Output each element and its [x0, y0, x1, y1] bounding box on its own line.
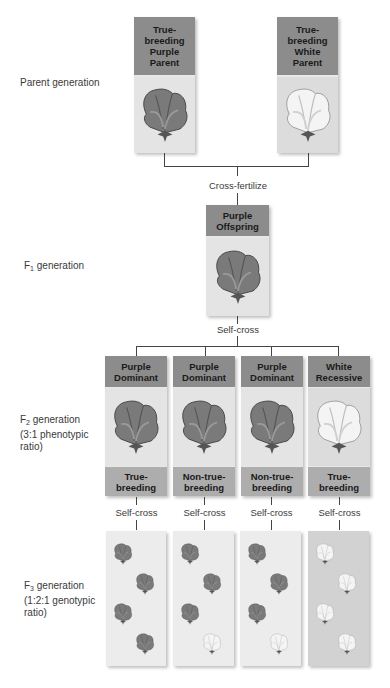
self-cross-label: Self-cross	[309, 507, 370, 518]
connector-line	[205, 346, 206, 356]
purple-flower-icon	[137, 83, 193, 147]
self-cross-label: Self-cross	[106, 507, 167, 518]
parent-white-header: True- breeding White Parent	[277, 17, 338, 75]
connector-line	[204, 497, 205, 505]
f2-header: Purple Dominant	[173, 356, 235, 387]
parent-purple-box: True- breeding Purple Parent	[134, 17, 195, 153]
f2-generation-label: F2 generation (3:1 phenotypic ratio)	[20, 414, 88, 453]
self-cross-label: Self-cross	[241, 507, 302, 518]
purple-flower-icon	[244, 394, 300, 460]
f2-breeding-label: Non-true- breeding	[241, 467, 303, 496]
white-flower-icon	[336, 571, 358, 597]
parent-purple-header: True- breeding Purple Parent	[134, 17, 195, 75]
purple-flower-icon	[210, 244, 266, 310]
f2-box-3: Purple Dominant Non-true- breeding	[241, 356, 303, 496]
purple-flower-icon	[134, 571, 156, 597]
connector-line	[271, 346, 272, 356]
purple-flower-icon	[268, 571, 290, 597]
connector-line	[136, 346, 339, 347]
connector-line	[308, 153, 309, 166]
purple-flower-icon	[201, 571, 223, 597]
f2-breeding-label: True- breeding	[308, 467, 370, 496]
purple-flower-icon	[108, 394, 164, 460]
connector-line	[271, 497, 272, 505]
f2-box-2: Purple Dominant Non-true- breeding	[173, 356, 235, 496]
connector-line	[271, 520, 272, 530]
f1-offspring-image	[206, 238, 269, 316]
connector-line	[237, 166, 238, 176]
white-flower-icon	[314, 541, 336, 567]
f2-image	[308, 388, 370, 466]
parent-purple-image	[134, 77, 195, 153]
f1-generation-label: F1 generation	[24, 260, 84, 275]
white-flower-icon	[314, 601, 336, 627]
f3-box-1	[106, 531, 166, 666]
f3-box-3	[240, 531, 301, 666]
self-cross-label: Self-cross	[188, 324, 288, 335]
parent-white-image	[277, 77, 338, 153]
purple-flower-icon	[176, 394, 232, 460]
f2-box-4: White Recessive True- breeding	[308, 356, 370, 496]
connector-line	[237, 193, 238, 205]
self-cross-label: Self-cross	[174, 507, 235, 518]
purple-flower-icon	[246, 541, 268, 567]
white-flower-icon	[280, 83, 336, 147]
purple-flower-icon	[246, 601, 268, 627]
f1-offspring-header: Purple Offspring	[206, 205, 269, 236]
f2-image	[173, 388, 235, 466]
f3-generation-label: F3 generation (1:2:1 genotypic ratio)	[24, 580, 95, 619]
purple-flower-icon	[179, 601, 201, 627]
f3-box-4	[308, 531, 369, 666]
white-flower-icon	[336, 631, 358, 657]
white-flower-icon	[311, 394, 367, 460]
purple-flower-icon	[112, 541, 134, 567]
connector-line	[237, 336, 238, 346]
connector-line	[237, 316, 238, 324]
f2-header: Purple Dominant	[105, 356, 167, 387]
purple-flower-icon	[134, 631, 156, 657]
connector-line	[339, 520, 340, 530]
connector-line	[164, 153, 165, 166]
connector-line	[339, 497, 340, 505]
f2-breeding-label: Non-true- breeding	[173, 467, 235, 496]
f3-box-2	[173, 531, 234, 666]
f2-image	[241, 388, 303, 466]
connector-line	[136, 346, 137, 356]
connector-line	[204, 520, 205, 530]
f2-box-1: Purple Dominant True- breeding	[105, 356, 167, 496]
parent-white-box: True- breeding White Parent	[277, 17, 338, 153]
f2-breeding-label: True- breeding	[105, 467, 167, 496]
purple-flower-icon	[179, 541, 201, 567]
f2-header: Purple Dominant	[241, 356, 303, 387]
purple-flower-icon	[112, 601, 134, 627]
f1-offspring-box: Purple Offspring	[206, 205, 269, 316]
cross-fertilize-label: Cross-fertilize	[188, 180, 288, 191]
connector-line	[136, 520, 137, 530]
parent-generation-label: Parent generation	[20, 77, 100, 89]
connector-line	[338, 346, 339, 356]
f2-image	[105, 388, 167, 466]
connector-line	[136, 497, 137, 505]
white-flower-icon	[268, 631, 290, 657]
white-flower-icon	[201, 631, 223, 657]
f2-header: White Recessive	[308, 356, 370, 387]
